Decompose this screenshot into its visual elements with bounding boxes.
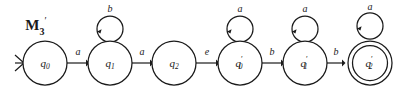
self-loop-circle (97, 16, 123, 42)
state-label-subscript: 0 (46, 62, 50, 71)
self-loop-circle (227, 16, 253, 42)
automaton-diagram: M3′ b a a a (0, 0, 407, 95)
self-loop-label-q0-prime: a (238, 3, 243, 14)
transition-q2-q0-prime: e (196, 46, 220, 66)
state-label-subscript: 2 (175, 62, 179, 71)
self-loop-label-q2-prime: a (368, 1, 373, 12)
state-label-subscript: 1 (111, 62, 115, 71)
state-q2[interactable]: q2 (152, 41, 196, 85)
self-loop-q1-prime: a (292, 3, 318, 42)
machine-title: M3′ (25, 15, 46, 37)
self-loop-q0-prime: a (227, 3, 253, 42)
transition-q0-q1: a (67, 46, 90, 66)
machine-title-base: M (25, 17, 39, 33)
state-label-subscript: 0 (239, 62, 243, 71)
state-label-q0-prime: q′0 (235, 55, 243, 71)
state-label-q2-prime: q′2 (365, 55, 373, 71)
self-loop-q1: b (97, 3, 123, 42)
transition-arrowhead (342, 60, 346, 67)
transition-label-q0-prime-q1-prime: b (270, 46, 275, 57)
transition-label-q1-q2: a (140, 46, 145, 57)
transition-label-q2-q0-prime: e (205, 46, 210, 57)
machine-title-subscript: 3 (39, 26, 44, 37)
automaton-svg-canvas: M3′ b a a a (0, 0, 407, 95)
state-q1-prime[interactable]: q′1 (283, 41, 327, 85)
state-q2-prime[interactable]: q′2 (348, 41, 392, 85)
state-label-subscript: 2 (369, 62, 373, 71)
self-loop-label-q1-prime: a (303, 3, 308, 14)
self-loop-q2-prime: a (357, 1, 383, 39)
self-loop-label-q1: b (108, 3, 113, 14)
transition-q1-prime-q2-prime: b (327, 46, 346, 66)
transition-q1-q2: a (132, 46, 154, 66)
state-label-q1-prime: q′1 (300, 55, 308, 71)
machine-title-prime: ′ (44, 15, 46, 26)
transition-label-q1-prime-q2-prime: b (334, 46, 339, 57)
state-q1[interactable]: q1 (88, 41, 132, 85)
self-loop-circle (357, 13, 383, 39)
state-q0[interactable]: q0 (23, 41, 67, 85)
transition-q0-prime-q1-prime: b (262, 46, 285, 66)
state-label-subscript: 1 (304, 62, 308, 71)
state-q0-prime[interactable]: q′0 (218, 41, 262, 85)
self-loop-circle (292, 16, 318, 42)
transition-label-q0-q1: a (76, 46, 81, 57)
